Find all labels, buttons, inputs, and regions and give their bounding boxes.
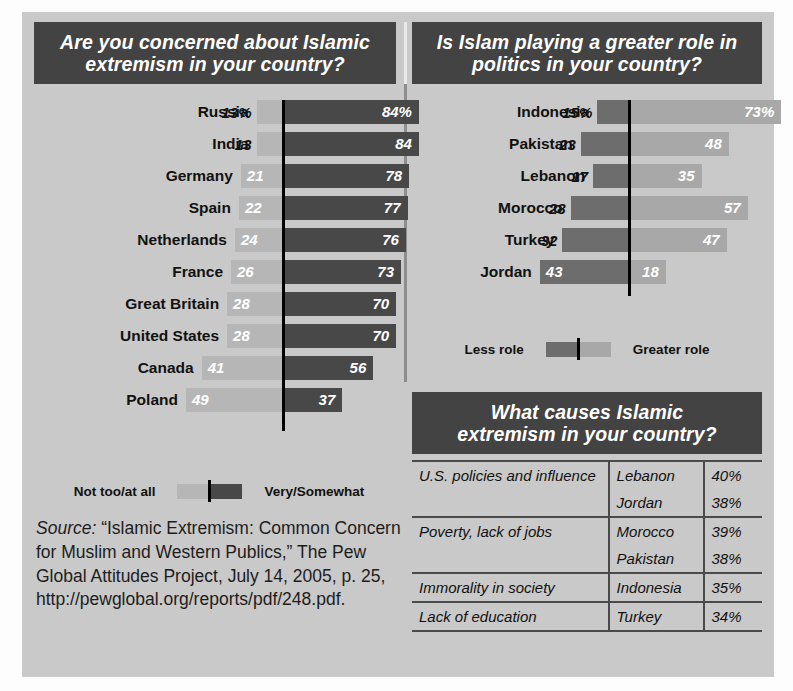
right-chart-title-line2: politics in your country?	[429, 53, 745, 75]
bar-less-role	[581, 132, 628, 156]
cause-cell: U.S. policies and influence	[412, 461, 609, 489]
legend-swatch-not-too	[177, 484, 208, 499]
bar-not-too-at-all: 41	[202, 356, 282, 380]
bar-not-too-at-all: 28	[227, 324, 282, 348]
bar-very-somewhat: 78	[282, 164, 409, 188]
bar-value-right: 73	[377, 263, 394, 280]
bar-very-somewhat: 37	[282, 388, 342, 412]
country-label: Lebanon	[412, 167, 585, 185]
bar-value-left: 24	[241, 231, 258, 248]
cause-cell	[412, 489, 609, 517]
source-label: Source:	[36, 518, 96, 538]
concern-chart: Russia13%84%India1384Germany2178Spain227…	[34, 100, 404, 455]
left-chart-title-line2: extremism in your country?	[52, 53, 378, 75]
bar-greater-role: 73%	[628, 100, 781, 124]
causes-table-title-line1: What causes Islamic	[449, 401, 724, 423]
bar-value-left: 32	[541, 232, 558, 249]
country-label: Turkey	[412, 231, 554, 249]
bar-not-too-at-all: 28	[227, 292, 282, 316]
header-divider	[404, 22, 407, 84]
left-chart-title: Are you concerned about Islamic extremis…	[34, 22, 396, 84]
table-row: Lack of educationTurkey34%	[412, 602, 762, 631]
bar-value-right: 56	[350, 359, 367, 376]
country-label: Morocco	[412, 199, 563, 217]
bar-value-left: 28	[233, 295, 250, 312]
country-label: Netherlands	[34, 231, 227, 249]
chart-row: Great Britain2870	[34, 292, 404, 317]
bar-value-right: 73%	[744, 103, 774, 120]
cause-cell	[412, 545, 609, 573]
bar-value-right: 70	[372, 295, 389, 312]
percent-cell: 40%	[704, 461, 762, 489]
percent-cell: 35%	[704, 573, 762, 602]
bar-value-right: 47	[703, 231, 720, 248]
causes-table-title-line2: extremism in your country?	[449, 423, 724, 445]
greater-role-chart-axis	[628, 100, 631, 296]
country-label: Pakistan	[412, 135, 573, 153]
bar-value-right: 77	[384, 199, 401, 216]
bar-not-too-at-all: 26	[231, 260, 282, 284]
legend-label-greater-role: Greater role	[633, 342, 710, 357]
causes-table-body: U.S. policies and influenceLebanon40%Jor…	[412, 461, 762, 631]
bar-value-left: 13%	[222, 104, 252, 121]
chart-row: Netherlands2476	[34, 228, 404, 253]
bar-very-somewhat: 76	[282, 228, 406, 252]
chart-row: Russia13%84%	[34, 100, 404, 125]
bar-value-left: 13	[235, 136, 252, 153]
bar-value-left: 49	[192, 391, 209, 408]
bar-very-somewhat: 84	[282, 132, 419, 156]
bar-less-role: 43	[540, 260, 628, 284]
concern-chart-rows: Russia13%84%India1384Germany2178Spain227…	[34, 100, 404, 413]
right-chart-title: Is Islam playing a greater role in polit…	[412, 22, 762, 84]
country-label: Jordan	[412, 263, 532, 281]
chart-row: Germany2178	[34, 164, 404, 189]
country-cell: Jordan	[609, 489, 704, 517]
table-row: U.S. policies and influenceLebanon40%	[412, 461, 762, 489]
country-label: Russia	[34, 103, 249, 121]
chart-row: Poland4937	[34, 388, 404, 413]
bar-value-right: 37	[319, 391, 336, 408]
cause-cell: Immorality in society	[412, 573, 609, 602]
country-label: France	[34, 263, 223, 281]
table-row: Immorality in societyIndonesia35%	[412, 573, 762, 602]
bar-not-too-at-all: 24	[235, 228, 282, 252]
bar-value-left: 28	[233, 327, 250, 344]
chart-row: Canada4156	[34, 356, 404, 381]
bar-greater-role: 57	[628, 196, 748, 220]
country-label: India	[34, 135, 249, 153]
bar-not-too-at-all: 21	[241, 164, 282, 188]
bar-value-right: 18	[642, 263, 659, 280]
bar-less-role	[597, 100, 628, 124]
percent-cell: 39%	[704, 517, 762, 545]
percent-cell: 38%	[704, 489, 762, 517]
bar-greater-role: 48	[628, 132, 729, 156]
source-note: Source: “Islamic Extremism: Common Conce…	[36, 517, 404, 612]
bar-very-somewhat: 56	[282, 356, 373, 380]
bar-value-left: 43	[546, 263, 563, 280]
country-label: Great Britain	[34, 295, 219, 313]
bar-value-right: 84%	[382, 103, 412, 120]
legend-swatch-very-somewhat	[211, 484, 242, 499]
bar-not-too-at-all	[257, 100, 282, 124]
bar-value-right: 57	[724, 199, 741, 216]
chart-row: Lebanon1735	[412, 164, 762, 189]
bar-less-role	[562, 228, 628, 252]
bar-value-left: 41	[208, 359, 225, 376]
cause-cell: Lack of education	[412, 602, 609, 631]
bar-value-right: 70	[372, 327, 389, 344]
bar-value-left: 15%	[562, 104, 592, 121]
bar-value-right: 78	[385, 167, 402, 184]
percent-cell: 38%	[704, 545, 762, 573]
bar-less-role	[593, 164, 628, 188]
country-label: United States	[34, 327, 219, 345]
country-label: Poland	[34, 391, 178, 409]
bar-not-too-at-all	[257, 132, 282, 156]
chart-row: Jordan4318	[412, 260, 762, 285]
chart-row: Morocco2857	[412, 196, 762, 221]
greater-role-chart-rows: Indonesia15%73%Pakistan2348Lebanon1735Mo…	[412, 100, 762, 285]
concern-chart-axis	[282, 100, 285, 431]
bar-very-somewhat: 70	[282, 324, 396, 348]
country-cell: Morocco	[609, 517, 704, 545]
bar-less-role	[571, 196, 628, 220]
bar-very-somewhat: 70	[282, 292, 396, 316]
